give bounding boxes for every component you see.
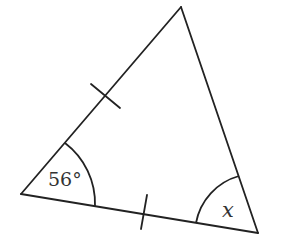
angle-label-x: x (222, 198, 234, 222)
triangle-diagram: 56° x (0, 0, 282, 247)
tick-mark-left-side (91, 84, 120, 108)
diagram-svg: 56° x (0, 0, 282, 247)
tick-mark-bottom-side (141, 195, 147, 229)
side-right (181, 7, 258, 233)
side-left (21, 7, 181, 194)
angle-label-56: 56° (48, 168, 82, 190)
